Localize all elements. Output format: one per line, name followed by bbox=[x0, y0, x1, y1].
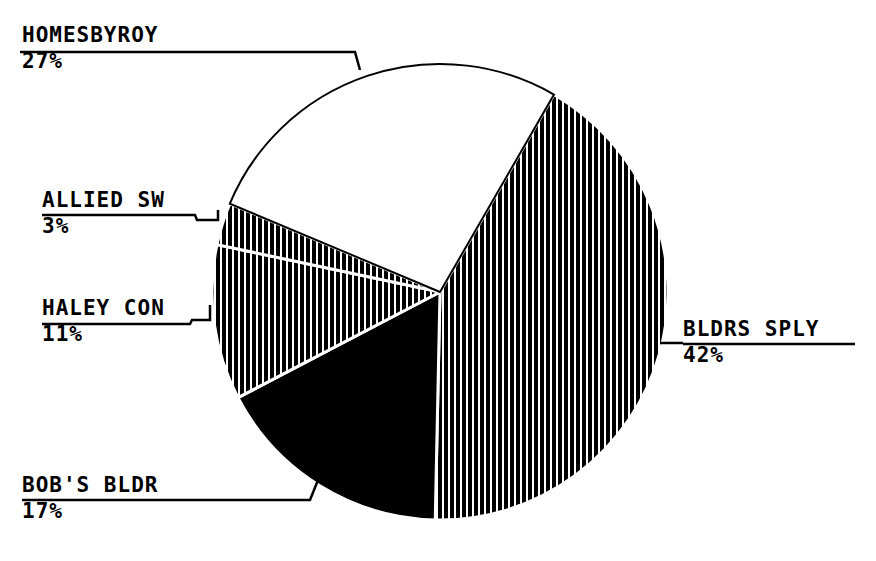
label-percent: 42% bbox=[683, 344, 819, 366]
label-percent: 11% bbox=[42, 323, 165, 345]
label-name: BOB'S BLDR bbox=[22, 474, 158, 496]
label-percent: 3% bbox=[42, 215, 165, 237]
label-name: BLDRS SPLY bbox=[683, 318, 819, 340]
label-name: ALLIED SW bbox=[42, 189, 165, 211]
label-allied-sw: ALLIED SW 3% bbox=[42, 189, 165, 237]
label-percent: 27% bbox=[22, 50, 158, 72]
label-name: HOMESBYROY bbox=[22, 24, 158, 46]
label-bldrs-sply: BLDRS SPLY 42% bbox=[683, 318, 819, 366]
label-percent: 17% bbox=[22, 500, 158, 522]
label-homesbyroy: HOMESBYROY 27% bbox=[22, 24, 158, 72]
label-bobs-bldr: BOB'S BLDR 17% bbox=[22, 474, 158, 522]
label-haley-con: HALEY CON 11% bbox=[42, 297, 165, 345]
label-name: HALEY CON bbox=[42, 297, 165, 319]
